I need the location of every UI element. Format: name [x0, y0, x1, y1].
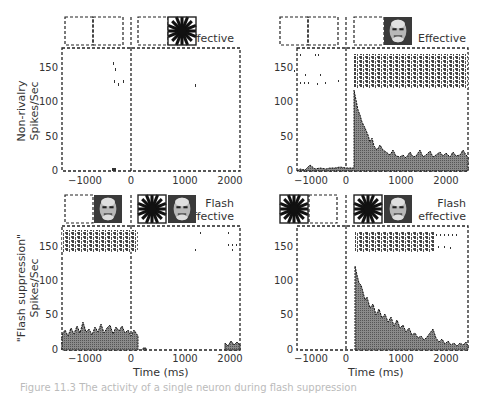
y-axis-ticks: 150100500	[39, 62, 58, 176]
face-stimulus-icon	[384, 17, 412, 45]
svg-text:50: 50	[280, 131, 293, 142]
svg-text:−1000: −1000	[294, 175, 328, 186]
svg-text:2000: 2000	[217, 175, 242, 186]
svg-text:50: 50	[45, 131, 58, 142]
raster-block	[354, 54, 468, 88]
svg-text:2000: 2000	[433, 175, 458, 186]
face-stimulus-icon	[384, 195, 412, 223]
sunburst-stimulus-icon	[280, 195, 308, 223]
stimulus-timeline	[309, 195, 346, 226]
stimulus-timeline	[280, 17, 384, 48]
plot-frame	[62, 48, 240, 171]
raster-block	[62, 230, 138, 252]
panel-bottom-right: 150100500 −1000010002000	[274, 195, 468, 364]
svg-text:0: 0	[128, 353, 134, 364]
svg-text:100: 100	[274, 275, 293, 286]
y-axis-ticks: 150100500	[274, 62, 293, 176]
svg-text:1000: 1000	[172, 353, 197, 364]
face-stimulus-icon	[168, 195, 196, 223]
svg-text:1000: 1000	[388, 353, 413, 364]
x-axis-ticks: −1000010002000	[294, 175, 459, 186]
figure-canvas: 150100500 −1000010002000 150100500	[0, 0, 481, 393]
panel-bottom-left: 150100500 −1000010002000	[39, 195, 243, 364]
svg-text:−1000: −1000	[68, 175, 102, 186]
svg-text:0: 0	[287, 165, 293, 176]
svg-text:150: 150	[39, 241, 58, 252]
sunburst-stimulus-icon	[168, 17, 196, 45]
psth-histogram	[355, 266, 468, 350]
panel-top-left: 150100500 −1000010002000	[39, 17, 243, 186]
svg-text:1000: 1000	[388, 175, 413, 186]
svg-text:150: 150	[274, 241, 293, 252]
psth-histogram	[62, 322, 138, 350]
x-axis-ticks: −1000010002000	[294, 353, 459, 364]
face-stimulus-icon	[94, 195, 122, 223]
svg-text:50: 50	[280, 309, 293, 320]
svg-text:50: 50	[45, 309, 58, 320]
svg-text:0: 0	[128, 175, 134, 186]
sunburst-stimulus-icon	[354, 195, 382, 223]
x-axis-ticks: −1000010002000	[68, 175, 243, 186]
svg-text:0: 0	[287, 344, 293, 355]
svg-text:0: 0	[52, 344, 58, 355]
raster-spikes	[436, 234, 457, 249]
svg-text:0: 0	[343, 353, 349, 364]
y-axis-ticks: 150100500	[274, 241, 293, 355]
psth-histogram-tail	[143, 341, 240, 350]
svg-text:100: 100	[39, 96, 58, 107]
svg-text:2000: 2000	[433, 353, 458, 364]
svg-text:100: 100	[274, 96, 293, 107]
y-axis-ticks: 150100500	[39, 241, 58, 355]
psth-histogram	[297, 90, 468, 171]
svg-text:−1000: −1000	[68, 353, 102, 364]
panel-top-right: 150100500 −1000010002000	[274, 17, 468, 186]
sunburst-stimulus-icon	[138, 195, 166, 223]
svg-text:−1000: −1000	[294, 353, 328, 364]
svg-text:2000: 2000	[217, 353, 242, 364]
svg-text:150: 150	[274, 62, 293, 73]
svg-text:0: 0	[52, 165, 58, 176]
svg-text:1000: 1000	[172, 175, 197, 186]
raster-spikes	[195, 232, 237, 251]
x-axis-ticks: −1000010002000	[68, 353, 243, 364]
svg-text:100: 100	[39, 275, 58, 286]
raster-block	[355, 232, 435, 252]
raster-spikes	[112, 62, 196, 171]
stimulus-timeline	[65, 17, 168, 48]
svg-text:0: 0	[343, 175, 349, 186]
raster-spikes	[294, 54, 339, 85]
svg-text:150: 150	[39, 62, 58, 73]
